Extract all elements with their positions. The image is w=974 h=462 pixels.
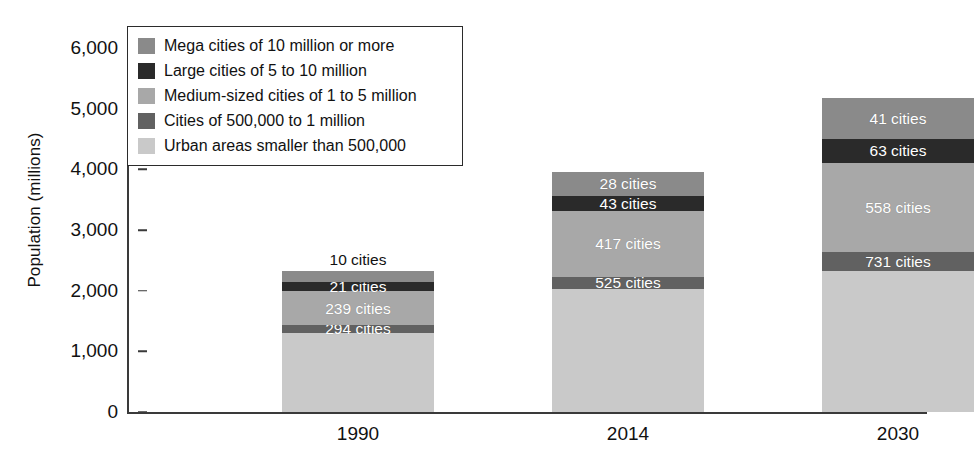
y-axis-tick-label: 6,000 <box>32 37 118 59</box>
bar-segment[interactable] <box>282 333 434 412</box>
y-axis-tick-label: 0 <box>32 401 118 423</box>
bar-segment[interactable]: 41 cities <box>822 98 974 139</box>
bar-segment[interactable]: 63 cities <box>822 139 974 163</box>
x-axis-category-label-1990: 1990 <box>337 423 379 445</box>
bar-segment[interactable]: 21 cities <box>282 282 434 291</box>
legend-item-label: Cities of 500,000 to 1 million <box>164 113 365 129</box>
bar-segment[interactable]: 28 cities <box>552 172 704 196</box>
legend-item[interactable]: Cities of 500,000 to 1 million <box>138 108 452 133</box>
segment-value-label: 63 cities <box>870 143 927 159</box>
y-axis-tick-group: 01,0002,0003,0004,0005,0006,000 <box>20 0 118 462</box>
segment-value-label: 41 cities <box>870 111 927 127</box>
legend-item[interactable]: Mega cities of 10 million or more <box>138 33 452 58</box>
legend-item[interactable]: Urban areas smaller than 500,000 <box>138 133 452 158</box>
legend-swatch-icon <box>138 88 155 104</box>
bar-segment[interactable]: 10 cities <box>282 271 434 283</box>
bar-segment[interactable]: 525 cities <box>552 277 704 290</box>
segment-value-label: 731 cities <box>865 254 930 270</box>
y-axis-tick-label: 2,000 <box>32 280 118 302</box>
legend-swatch-icon <box>138 38 155 54</box>
bar-1990[interactable]: 294 cities239 cities21 cities10 cities <box>282 271 434 412</box>
bar-segment[interactable]: 417 cities <box>552 211 704 277</box>
segment-value-label: 417 cities <box>595 236 660 252</box>
y-axis-tick-label: 5,000 <box>32 98 118 120</box>
legend-item[interactable]: Large cities of 5 to 10 million <box>138 58 452 83</box>
segment-value-label: 10 cities <box>330 252 387 268</box>
segment-value-label: 28 cities <box>600 176 657 192</box>
legend-item-label: Large cities of 5 to 10 million <box>164 63 367 79</box>
segment-value-label: 43 cities <box>600 196 657 212</box>
segment-value-label: 239 cities <box>325 301 390 317</box>
legend-swatch-icon <box>138 138 155 154</box>
y-axis-tick-label: 4,000 <box>32 158 118 180</box>
bar-segment[interactable] <box>822 271 974 412</box>
legend-swatch-icon <box>138 63 155 79</box>
segment-value-label: 558 cities <box>865 200 930 216</box>
segment-value-label: 525 cities <box>595 275 660 291</box>
bar-segment[interactable]: 731 cities <box>822 252 974 270</box>
legend-item[interactable]: Medium-sized cities of 1 to 5 million <box>138 83 452 108</box>
bar-segment[interactable]: 294 cities <box>282 325 434 332</box>
bar-2014[interactable]: 525 cities417 cities43 cities28 cities <box>552 172 704 412</box>
y-axis-tick-label: 3,000 <box>32 219 118 241</box>
bar-segment[interactable]: 558 cities <box>822 163 974 253</box>
x-axis-category-label-2014: 2014 <box>607 423 649 445</box>
x-axis-line <box>127 412 927 414</box>
legend-item-label: Medium-sized cities of 1 to 5 million <box>164 88 417 104</box>
bar-2030[interactable]: 731 cities558 cities63 cities41 cities <box>822 98 974 412</box>
legend-swatch-icon <box>138 113 155 129</box>
legend-box: Mega cities of 10 million or moreLarge c… <box>127 26 463 166</box>
bar-segment[interactable]: 43 cities <box>552 196 704 211</box>
legend-item-label: Urban areas smaller than 500,000 <box>164 138 406 154</box>
legend-item-label: Mega cities of 10 million or more <box>164 38 394 54</box>
y-axis-tick-label: 1,000 <box>32 340 118 362</box>
bar-segment[interactable] <box>552 289 704 412</box>
bar-segment[interactable]: 239 cities <box>282 291 434 325</box>
x-axis-category-label-2030: 2030 <box>877 423 919 445</box>
